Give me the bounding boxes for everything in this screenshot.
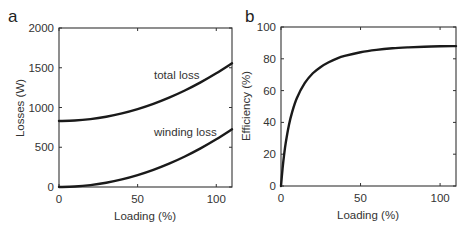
y-tick-labels-b: 0 20 40 60 80 100 bbox=[257, 21, 276, 192]
panel-b: b 0 20 40 60 80 100 0 50 100 Loading (%)… bbox=[240, 7, 456, 221]
figure: a 0 500 1000 1500 2000 0 50 100 Loading … bbox=[0, 0, 470, 235]
y-axis-label-b: Efficiency (%) bbox=[240, 71, 252, 141]
x-tick-label: 0 bbox=[278, 192, 284, 204]
y-tick-labels-a: 0 500 1000 1500 2000 bbox=[28, 22, 54, 193]
y-tick-label: 40 bbox=[263, 116, 276, 128]
efficiency-curve bbox=[281, 46, 456, 186]
x-tick-labels-b: 0 50 100 bbox=[278, 192, 450, 204]
y-tick-label: 2000 bbox=[28, 22, 54, 34]
panel-label-b: b bbox=[245, 7, 254, 26]
annotation-winding-loss: winding loss bbox=[153, 126, 217, 138]
total-loss-curve bbox=[59, 63, 232, 121]
y-axis-label-a: Losses (W) bbox=[14, 79, 26, 137]
y-tick-label: 100 bbox=[257, 21, 276, 33]
x-tick-label: 50 bbox=[131, 193, 144, 205]
panel-a: a 0 500 1000 1500 2000 0 50 100 Loading … bbox=[8, 7, 232, 222]
y-tick-label: 1000 bbox=[28, 102, 54, 114]
x-tick-label: 100 bbox=[431, 192, 450, 204]
y-tick-label: 500 bbox=[35, 141, 54, 153]
annotation-total-loss: total loss bbox=[154, 69, 200, 81]
y-tick-label: 60 bbox=[263, 85, 276, 97]
y-tick-label: 0 bbox=[48, 181, 54, 193]
x-tick-label: 0 bbox=[56, 193, 62, 205]
y-tick-label: 20 bbox=[263, 148, 276, 160]
x-tick-label: 50 bbox=[354, 192, 367, 204]
panel-label-a: a bbox=[8, 7, 18, 26]
y-tick-label: 0 bbox=[270, 180, 276, 192]
x-axis-label-a: Loading (%) bbox=[114, 210, 176, 222]
y-tick-label: 1500 bbox=[28, 62, 54, 74]
x-tick-label: 100 bbox=[207, 193, 226, 205]
x-tick-labels-a: 0 50 100 bbox=[56, 193, 226, 205]
x-axis-label-b: Loading (%) bbox=[337, 209, 399, 221]
y-tick-label: 80 bbox=[263, 53, 276, 65]
